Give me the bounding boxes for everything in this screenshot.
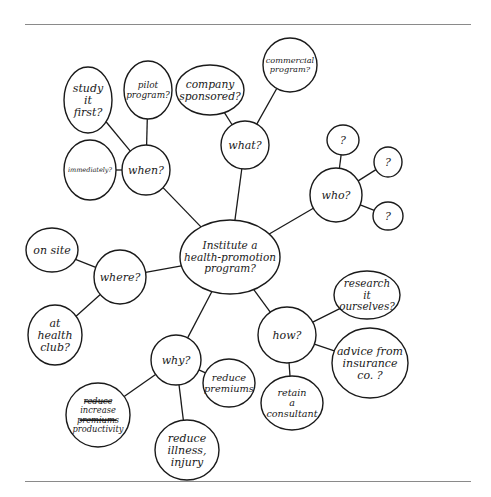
node-layer: Institute ahealth-promotionprogram?when?… [26,38,408,480]
node-label-line: club? [40,341,70,354]
edge-who-who-unknown-3 [360,205,374,211]
edge-where-at-health-club [76,295,100,317]
node-advice-from-insurance: advice frominsuranceco. ? [332,328,408,398]
node-label-line: ? [385,210,391,223]
edge-center-what [235,169,242,220]
node-label-line: where? [100,271,141,284]
node-label-line: it [363,289,371,301]
node-label-line: premiums [204,383,254,394]
node-label-line: immediately? [68,166,113,174]
edge-when-pilot-program [147,119,148,145]
node-label-line: insurance [343,357,398,370]
edge-why-reduce-premiums [199,370,206,373]
node-label-line: study [73,82,104,95]
node-label-line: program? [270,64,311,74]
edge-when-study-it-first [106,122,130,151]
edge-how-research-it-ourselves [313,309,340,323]
node-label-line: co. ? [357,369,383,382]
edge-center-where [146,266,182,273]
node-label-line: who? [321,189,350,202]
node-label-line: Institute a [202,239,258,251]
edge-who-who-unknown-2 [358,170,376,181]
edge-center-who [269,208,313,234]
node-who: who? [310,168,362,222]
node-label-line: when? [128,164,164,177]
node-commercial-program: commercialprogram? [263,38,317,92]
node-label-line: it [84,94,93,107]
edge-why-reduce-illness-injury [179,385,183,420]
node-why: why? [151,335,201,385]
node-where: where? [94,250,146,304]
node-reduce-illness-injury: reduceillness,injury [155,420,219,480]
node-what: what? [221,121,269,169]
node-label-line: a [289,397,295,408]
edge-center-why [188,291,212,337]
node-label-line: advice from [337,345,403,358]
edge-what-commercial-program [257,89,277,125]
node-label-line: why? [162,354,191,367]
node-company-sponsored: companysponsored? [176,65,244,115]
node-label-line: on site [33,244,71,257]
node-label-line: retain [277,387,306,398]
node-who-unknown-2: ? [374,147,402,177]
node-retain-a-consultant: retainaconsultant [261,376,323,430]
node-label-line: productivity [73,424,124,434]
node-label-line: research [344,277,390,289]
node-immediately: immediately? [64,140,116,200]
mind-map: Institute ahealth-promotionprogram?when?… [0,0,491,497]
node-center: Institute ahealth-promotionprogram? [180,220,280,294]
node-on-site: on site [26,228,78,272]
node-label-line: first? [73,106,103,119]
node-label-line: program? [126,90,170,100]
node-when: when? [122,145,170,195]
node-increase-productivity: reduceincreasepremiumsproductivity [66,383,130,447]
node-label-line: ourselves? [339,300,395,312]
node-label-line: injury [171,456,204,469]
node-label-line: sponsored? [179,90,241,103]
edge-center-how [254,290,270,313]
node-label-line: ? [385,156,391,169]
node-how: how? [258,307,316,363]
node-label-line: consultant [266,408,317,419]
edge-where-on-site [76,259,96,267]
edge-why-increase-productivity [124,374,155,396]
node-pilot-program: pilotprogram? [124,61,172,119]
node-label-line: illness, [168,444,207,457]
node-label-line: what? [228,139,261,152]
edge-who-who-unknown-1 [339,155,341,168]
node-who-unknown-1: ? [327,125,359,155]
node-study-it-first: studyitfirst? [64,67,112,133]
edge-center-when [163,188,201,227]
node-who-unknown-3: ? [373,202,403,230]
node-label-line: health [37,329,72,342]
edge-how-retain-a-consultant [289,363,290,376]
node-label-line: program? [204,262,256,274]
node-label-line: health-promotion [184,251,276,263]
node-reduce-premiums: reducepremiums [203,359,255,407]
node-at-health-club: athealthclub? [28,305,82,365]
node-label-line: pilot [138,80,159,90]
node-label-line: reduce [212,372,247,383]
edge-what-company-sponsored [224,113,232,125]
node-label-line: at [50,317,62,330]
node-research-it-ourselves: researchitourselves? [334,271,400,319]
node-label-line: ? [340,134,346,147]
edge-how-advice-from-insurance [314,344,334,351]
node-label-line: how? [272,329,301,342]
node-label-line: reduce [168,432,207,445]
